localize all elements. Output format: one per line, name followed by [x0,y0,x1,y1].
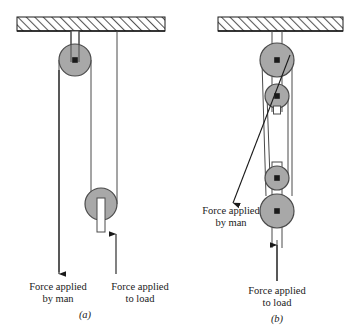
panel-label-b: (b) [252,313,302,324]
upper-block-large-pulley-b [260,43,294,77]
panel-a [17,17,165,274]
panel-label-a: (a) [60,309,110,320]
load-hanger-a [97,198,105,232]
force-to-load-label-b: Force applied to load [225,285,329,308]
panel-b [218,17,343,281]
upper-block-lug-b [274,106,281,114]
ceiling-a [17,17,165,31]
force-by-man-label-b: Force applied by man [179,205,283,228]
lower-block-small-pulley-b [265,166,289,190]
pulley-figure: Force applied by man Force applied to lo… [0,0,346,335]
fixed-pulley-a [59,44,91,76]
force-to-load-label-a: Force applied to load [88,281,192,304]
ceiling-b [218,17,343,31]
